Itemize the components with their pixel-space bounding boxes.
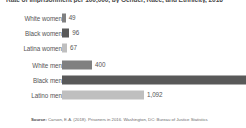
source-text: Carson, E.A. (2018). Prisoners in 2016. …: [47, 117, 208, 122]
bar-row: Black women 96: [0, 25, 246, 40]
bar-label-black-women: Black women: [25, 29, 62, 36]
bar-latino-men[interactable]: [62, 90, 144, 99]
imprisonment-rate-bar-chart: Rate of Imprisonment per 100,000, by Gen…: [0, 0, 246, 128]
bar-value-white-women: 49: [69, 14, 76, 21]
bar-value-latino-men: 1,092: [147, 91, 163, 98]
bar-group-men: White men 400 Black men 2,45 Latino men …: [0, 57, 246, 102]
bar-track: 2,45: [62, 75, 246, 84]
bar-track: 96: [62, 28, 246, 37]
bar-label-black-men: Black men: [33, 76, 62, 83]
bar-black-women[interactable]: [62, 28, 69, 37]
bar-label-white-women: White women: [24, 14, 62, 21]
chart-title: Rate of Imprisonment per 100,000, by Gen…: [6, 0, 246, 3]
bar-row: White women 49: [0, 10, 246, 25]
bar-label-latina-women: Latina women: [23, 44, 62, 51]
bar-row: Latina women 67: [0, 40, 246, 55]
bar-label-latino-men: Latino men: [31, 91, 62, 98]
source-note: Source: Carson, E.A. (2018). Prisoners i…: [31, 117, 208, 122]
bar-white-women[interactable]: [62, 13, 66, 22]
bar-row: White men 400: [0, 57, 246, 72]
bar-track: 400: [62, 60, 246, 69]
bar-track: 49: [62, 13, 246, 22]
bar-value-black-women: 96: [72, 29, 79, 36]
bar-value-latina-women: 67: [70, 44, 77, 51]
bar-latina-women[interactable]: [62, 43, 67, 52]
plot-area: White women 49 Black women 96 Latina wom…: [0, 10, 246, 112]
bar-value-white-men: 400: [95, 61, 105, 68]
bar-row: Black men 2,45: [0, 72, 246, 87]
bar-track: 67: [62, 43, 246, 52]
bar-group-women: White women 49 Black women 96 Latina wom…: [0, 10, 246, 55]
bar-row: Latino men 1,092: [0, 87, 246, 102]
source-label: Source:: [31, 117, 47, 122]
bar-black-men[interactable]: [62, 75, 246, 84]
bar-white-men[interactable]: [62, 60, 92, 69]
bar-label-white-men: White men: [32, 61, 62, 68]
bar-track: 1,092: [62, 90, 246, 99]
